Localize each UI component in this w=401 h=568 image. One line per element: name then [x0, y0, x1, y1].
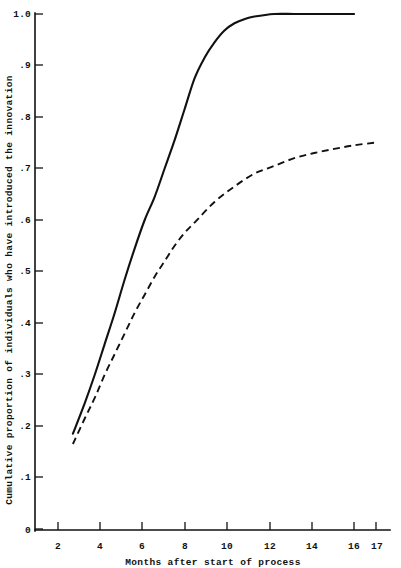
x-tick-label-10: 10: [221, 541, 233, 552]
x-tick-label-14: 14: [306, 541, 318, 552]
y-axis-title: Cumulative proportion of individuals who…: [4, 75, 15, 505]
x-tick-label-12: 12: [264, 541, 276, 552]
x-tick-label-4: 4: [97, 541, 103, 552]
y-tick-label-0.2: .2: [19, 421, 31, 432]
y-tick-label-0.1: .1: [19, 472, 31, 483]
x-axis-title: Months after start of process: [125, 557, 300, 568]
y-tick-label-0.4: .4: [19, 318, 31, 329]
x-axis-ticks: [58, 522, 376, 530]
chart-figure: 1.0 .9 .8 .7 .6 .5 .4 .3 .2 .1 0 2 4 6 8…: [0, 0, 401, 568]
y-tick-label-0: 0: [25, 525, 31, 536]
series-line-solid: [73, 14, 354, 434]
x-tick-label-17: 17: [371, 541, 383, 552]
y-tick-label-0.5: .5: [19, 266, 31, 277]
series-line-dashed: [73, 143, 374, 444]
y-tick-label-0.6: .6: [19, 215, 31, 226]
y-tick-label-0.3: .3: [19, 369, 31, 380]
x-tick-label-2: 2: [55, 541, 61, 552]
line-chart-canvas: 1.0 .9 .8 .7 .6 .5 .4 .3 .2 .1 0 2 4 6 8…: [0, 0, 401, 568]
x-tick-label-16: 16: [348, 541, 360, 552]
y-tick-label-0.9: .9: [19, 60, 31, 71]
y-axis-ticks: [35, 14, 43, 529]
y-tick-label-0.7: .7: [19, 163, 31, 174]
y-tick-label-0.8: .8: [19, 112, 31, 123]
x-tick-label-8: 8: [182, 541, 188, 552]
x-tick-label-6: 6: [139, 541, 145, 552]
y-tick-label-1.0: 1.0: [13, 9, 31, 20]
